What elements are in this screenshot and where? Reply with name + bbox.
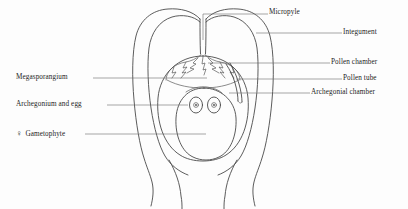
ovule-diagram: Micropyle Integument Pollen chamber Poll… xyxy=(0,0,408,209)
label-pollen-tube: Pollen tube xyxy=(343,75,377,82)
leader-lines xyxy=(85,14,342,134)
archegonium-right xyxy=(208,97,221,113)
label-integument: Integument xyxy=(343,29,377,36)
pollen-chamber xyxy=(166,55,240,88)
label-gametophyte-text: Gametophyte xyxy=(25,130,65,138)
archegonium-left xyxy=(190,97,203,113)
ovule-stalk xyxy=(169,160,237,209)
label-gametophyte: ♀Gametophyte xyxy=(16,130,65,138)
label-pollen-chamber: Pollen chamber xyxy=(331,59,377,66)
female-gametophyte-outline xyxy=(176,88,236,160)
label-megasporangium: Megasporangium xyxy=(16,74,68,81)
pollen-tube xyxy=(226,63,242,103)
label-archegonial-chamber: Archegonial chamber xyxy=(311,89,375,96)
venus-female-icon: ♀ xyxy=(16,129,22,138)
label-micropyle: Micropyle xyxy=(269,9,300,16)
label-archegonium-and-egg: Archegonium and egg xyxy=(16,101,82,108)
